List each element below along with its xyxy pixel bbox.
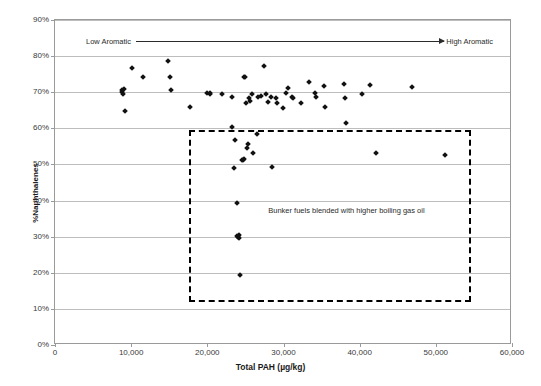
y-tick-label: 50% (33, 160, 49, 168)
scatter-point (286, 85, 292, 91)
x-tick-mark (207, 343, 208, 347)
scatter-point (187, 104, 193, 110)
y-tick-mark (51, 92, 55, 93)
y-tick-label: 0% (37, 341, 49, 349)
y-tick-label: 20% (33, 269, 49, 277)
scatter-point (299, 100, 305, 106)
arrow-head-icon (439, 38, 445, 44)
scatter-point (254, 132, 260, 138)
scatter-point (342, 95, 348, 101)
x-tick-label: 10,000 (119, 349, 143, 357)
scatter-point (265, 99, 271, 105)
y-tick-label: 70% (33, 88, 49, 96)
gridline (55, 128, 510, 129)
x-tick-label: 30,000 (271, 349, 295, 357)
gridline (55, 164, 510, 165)
scatter-point (367, 83, 373, 89)
gridline (55, 273, 510, 274)
scatter-point (409, 84, 415, 90)
x-tick-mark (284, 343, 285, 347)
low-aromatic-label: Low Aromatic (54, 37, 136, 46)
x-tick-mark (436, 343, 437, 347)
scatter-point (261, 63, 267, 69)
x-tick-label: 50,000 (424, 349, 448, 357)
y-tick-label: 10% (33, 305, 49, 313)
scatter-point (120, 91, 126, 97)
x-tick-mark (55, 343, 56, 347)
y-tick-mark (51, 201, 55, 202)
scatter-point (342, 81, 348, 87)
scatter-point (313, 94, 319, 100)
y-axis-title: %Naphthalenes (31, 163, 40, 223)
x-tick-label: 60,000 (500, 349, 524, 357)
y-tick-mark (51, 237, 55, 238)
gridline (55, 201, 510, 202)
scatter-point (167, 74, 173, 80)
scatter-point (321, 83, 327, 89)
scatter-point (140, 74, 146, 80)
scatter-point (248, 98, 254, 104)
scatter-point (234, 201, 240, 207)
y-tick-label: 40% (33, 197, 49, 205)
x-tick-label: 40,000 (347, 349, 371, 357)
scatter-point (280, 105, 286, 111)
y-tick-label: 30% (33, 233, 49, 241)
scatter-point (122, 108, 128, 114)
scatter-point (230, 94, 236, 100)
gridline (55, 309, 510, 310)
bunker-fuels-annotation-label: Bunker fuels blended with higher boiling… (268, 206, 424, 215)
bunker-fuels-callout-box (189, 130, 471, 302)
y-tick-mark (51, 309, 55, 310)
scatter-point (343, 120, 349, 126)
high-aromatic-label: High Aromatic (444, 37, 511, 46)
scatter-point (231, 165, 237, 171)
gridline (55, 56, 510, 57)
gridline (55, 20, 510, 21)
x-tick-label: 0 (53, 349, 57, 357)
scatter-point (291, 96, 297, 102)
x-tick-mark (360, 343, 361, 347)
scatter-point (306, 79, 312, 85)
x-tick-label: 20,000 (195, 349, 219, 357)
y-tick-mark (51, 20, 55, 21)
y-tick-label: 80% (33, 52, 49, 60)
scatter-point (165, 58, 171, 64)
aromatic-gradient-annotation: Low Aromatic High Aromatic (54, 33, 511, 49)
scatter-point (323, 104, 329, 110)
y-tick-mark (51, 164, 55, 165)
scatter-point (129, 66, 135, 72)
gridline (55, 237, 510, 238)
scatter-point (232, 137, 238, 143)
x-tick-mark (512, 343, 513, 347)
y-tick-label: 90% (33, 16, 49, 24)
scatter-point (373, 150, 379, 156)
x-tick-mark (131, 343, 132, 347)
aromatic-arrow-line (136, 41, 444, 42)
y-tick-label: 60% (33, 124, 49, 132)
plot-area: 0%10%20%30%40%50%60%70%80%90% 010,00020,… (54, 19, 511, 344)
scatter-point (442, 153, 448, 159)
scatter-point (237, 272, 243, 278)
y-tick-mark (51, 273, 55, 274)
y-tick-mark (51, 56, 55, 57)
scatter-point (274, 100, 280, 106)
scatter-point (251, 150, 257, 156)
figure-scatter-plot: %Naphthalenes 0%10%20%30%40%50%60%70%80%… (0, 0, 541, 386)
y-tick-mark (51, 128, 55, 129)
x-axis-title: Total PAH (µg/kg) (0, 362, 541, 372)
figure-caption (30, 374, 511, 386)
scatter-point (219, 92, 225, 98)
